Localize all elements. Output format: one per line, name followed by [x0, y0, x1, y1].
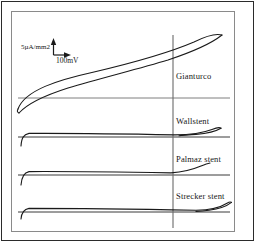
curve-label-gianturco: Gianturco — [176, 71, 211, 81]
curve-label-wallstent: Wallstent — [176, 116, 209, 126]
x-axis-scale-label: 100mV — [56, 56, 79, 65]
y-axis-scale-label: 5µA/mm2 — [21, 43, 50, 51]
curve-label-strecker-stent: Strecker stent — [176, 191, 225, 201]
stent-voltammetry-figure: 5µA/mm2 100mV Gianturco Wallstent Palmaz… — [0, 0, 256, 243]
plot-canvas — [0, 0, 256, 243]
axis-scale-marker — [51, 38, 71, 58]
curve-strecker-stent — [21, 202, 232, 219]
curve-label-palmaz-stent: Palmaz stent — [176, 154, 221, 164]
curve-palmaz-stent — [21, 163, 210, 185]
